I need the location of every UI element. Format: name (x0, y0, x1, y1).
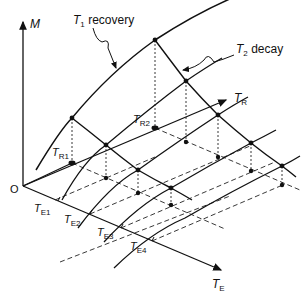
decay-pointer (183, 55, 234, 70)
floor-points (69, 126, 285, 208)
tr1-link (23, 163, 72, 186)
te3-label: TE3 (97, 226, 114, 241)
drop-lines (72, 40, 282, 205)
origin-label: O (10, 183, 19, 195)
t1-recovery-label: T1 recovery (73, 13, 134, 29)
surface-points (70, 38, 285, 191)
diagram-canvas: M O T1 recovery T2 decay TR TE TR1 TR2 T… (0, 0, 306, 297)
tr-axis-label: TR (234, 91, 247, 107)
tr1-label: TR1 (52, 146, 70, 161)
te-axis-label: TE (212, 277, 225, 293)
relaxation-3d-diagram: M O T1 recovery T2 decay TR TE TR1 TR2 T… (0, 0, 306, 297)
te2-label: TE2 (64, 213, 81, 228)
m-axis-label: M (30, 17, 40, 31)
t2-decay-label: T2 decay (236, 42, 283, 58)
te1-label: TE1 (34, 202, 51, 217)
recovery-pointer (93, 28, 116, 68)
